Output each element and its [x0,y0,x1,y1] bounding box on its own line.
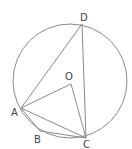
label-d: D [80,12,88,23]
label-c: C [83,139,90,149]
geometry-diagram: D O A B C [0,0,132,149]
label-b: B [34,134,41,145]
segment-dc [82,24,86,138]
label-o: O [65,71,73,82]
segment-ao [21,84,71,108]
segment-ad [21,24,82,108]
segment-ab [21,108,40,131]
label-a: A [11,107,18,118]
segment-oc [71,84,86,138]
